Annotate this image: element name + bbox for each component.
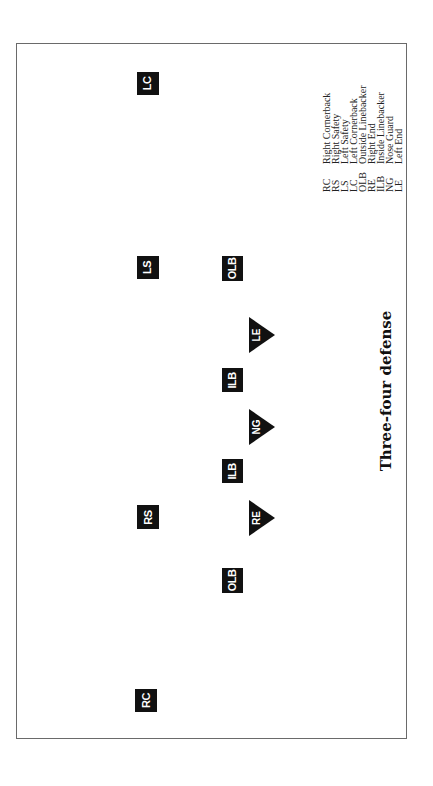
player-lc-marker: LC	[137, 72, 159, 95]
player-olb-left-marker: OLB	[222, 256, 243, 281]
legend-desc: Left End	[394, 129, 403, 164]
player-rs-marker: RS	[137, 505, 159, 529]
player-ilb-left-label: ILB	[227, 372, 238, 388]
player-ls-marker: LS	[137, 256, 159, 279]
player-rc-marker: RC	[135, 689, 157, 712]
legend-abbr: LE	[394, 164, 403, 192]
player-re-label: RE	[252, 508, 262, 528]
player-rc-label: RC	[140, 693, 151, 708]
legend: RC Right Cornerback RS Right Safety LS L…	[322, 68, 403, 192]
player-ls-label: LS	[143, 261, 154, 274]
player-ilb-left-marker: ILB	[222, 368, 243, 392]
player-le-label: LE	[252, 325, 262, 345]
player-ilb-right-label: ILB	[227, 463, 238, 479]
player-olb-right-marker: OLB	[222, 568, 243, 593]
player-lc-label: LC	[142, 77, 153, 91]
player-olb-right-label: OLB	[227, 570, 238, 592]
player-rs-label: RS	[143, 510, 154, 524]
legend-row: LE Left End	[394, 68, 403, 192]
player-ng-label: NG	[252, 417, 262, 437]
player-olb-left-label: OLB	[227, 258, 238, 280]
diagram-title: Three-four defense	[377, 311, 395, 472]
player-ilb-right-marker: ILB	[222, 459, 243, 483]
